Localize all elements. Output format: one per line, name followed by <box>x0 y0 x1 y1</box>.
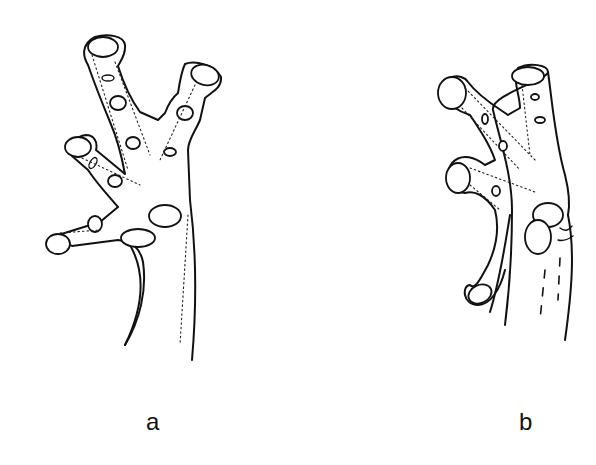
figure: a b <box>0 0 596 465</box>
panel-label-b: b <box>519 410 532 434</box>
foot-illustration-a <box>46 35 221 360</box>
panel-label-a: a <box>146 410 159 434</box>
foot-illustration-b <box>438 65 573 340</box>
